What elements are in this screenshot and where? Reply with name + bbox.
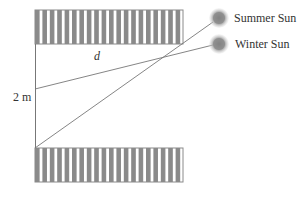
shading-diagram (0, 0, 300, 199)
overhang-block (35, 10, 183, 44)
winter-sun-ray (35, 45, 213, 89)
summer-sun-label: Summer Sun (234, 12, 296, 24)
winter-sun-label: Winter Sun (235, 38, 290, 50)
d-label: d (94, 50, 100, 62)
summer-sun-icon (209, 8, 229, 28)
height-label: 2 m (13, 91, 31, 103)
winter-sun-icon (209, 34, 229, 54)
floor-block (35, 148, 183, 182)
